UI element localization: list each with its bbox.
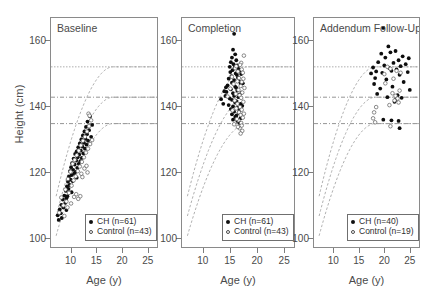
data-point-ch [385, 95, 389, 99]
data-point-control [85, 130, 89, 134]
data-point-ch [400, 96, 404, 100]
x-tick [203, 248, 204, 253]
data-point-ch [230, 56, 234, 60]
data-point-ch [407, 56, 411, 60]
data-point-control [76, 169, 80, 173]
data-point-control [86, 147, 90, 151]
data-point-ch [372, 82, 376, 86]
data-point-control [239, 84, 243, 88]
filled-circle-icon [351, 220, 355, 224]
data-point-ch [222, 89, 226, 93]
plot-frame: CompletionCH (n=61)Control (n=43) [181, 17, 295, 248]
data-point-ch [230, 112, 234, 116]
legend: CH (n=61)Control (n=43) [222, 214, 294, 241]
data-point-control [79, 194, 83, 198]
data-point-ch [379, 52, 383, 56]
legend-label: Control (n=43) [97, 227, 152, 237]
legend-item-control: Control (n=19) [351, 227, 414, 237]
data-point-ch [394, 49, 398, 53]
data-point-control [236, 80, 240, 84]
panel-title: Completion [188, 22, 241, 34]
x-tick-label: 10 [197, 255, 208, 266]
growth-curve-1 [319, 97, 420, 216]
data-point-control [239, 96, 243, 100]
data-point-control [242, 112, 246, 116]
plot-frame: BaselineCH (n=61)Control (n=43) [50, 17, 158, 248]
data-point-control [82, 155, 86, 159]
x-axis-label: Age (y) [50, 274, 158, 286]
data-point-control [226, 95, 230, 99]
data-point-ch [231, 48, 235, 52]
legend: CH (n=40)Control (n=19) [347, 214, 419, 241]
data-point-control [75, 153, 79, 157]
data-point-control [66, 177, 70, 181]
data-point-control [389, 124, 393, 128]
open-circle-icon [89, 230, 93, 234]
x-axis-label: Age (y) [181, 274, 295, 286]
data-point-ch [224, 85, 228, 89]
data-point-ch [221, 102, 225, 106]
plot-frame: Addendum Follow-UpCH (n=40)Control (n=19… [313, 17, 420, 248]
data-point-control [391, 91, 395, 95]
data-point-ch [386, 44, 390, 48]
data-point-control [383, 72, 387, 76]
data-point-control [59, 196, 63, 200]
data-point-control [398, 89, 402, 93]
filled-circle-icon [226, 220, 230, 224]
data-point-control [90, 138, 94, 142]
data-point-control [242, 100, 246, 104]
data-point-control [62, 204, 66, 208]
data-point-control [232, 122, 236, 126]
x-tick-label: 25 [279, 255, 290, 266]
data-point-ch [399, 64, 403, 68]
open-circle-icon [226, 230, 230, 234]
data-point-control [78, 165, 82, 169]
data-point-ch [392, 61, 396, 65]
x-tick-label: 10 [328, 255, 339, 266]
x-tick [384, 248, 385, 253]
x-axis-label: Age (y) [313, 274, 420, 286]
y-axis-label: Height (cm) [13, 69, 25, 159]
data-point-control [67, 191, 71, 195]
y-tick-label: 120 [292, 167, 309, 178]
growth-chart-figure: Height (cm) BaselineCH (n=61)Control (n=… [0, 0, 429, 294]
data-point-ch [373, 76, 377, 80]
data-point-control [86, 171, 90, 175]
panel-baseline: BaselineCH (n=61)Control (n=43)100120140… [50, 17, 158, 248]
data-point-control [231, 109, 235, 113]
data-point-control [397, 101, 401, 105]
data-point-control [87, 124, 91, 128]
data-point-ch [381, 118, 385, 122]
x-tick [257, 248, 258, 253]
x-tick [359, 248, 360, 253]
data-point-ch [391, 85, 395, 89]
data-point-control [88, 142, 92, 146]
x-tick-label: 25 [404, 255, 415, 266]
x-tick-label: 25 [142, 255, 153, 266]
data-point-control [230, 75, 234, 79]
data-point-control [236, 102, 240, 106]
panel-completion: CompletionCH (n=61)Control (n=43)1001201… [181, 17, 295, 248]
x-tick [96, 248, 97, 253]
data-point-control [242, 54, 246, 58]
data-point-control [71, 162, 75, 166]
legend-item-control: Control (n=43) [226, 227, 289, 237]
data-point-control [79, 144, 83, 148]
legend-item-control: Control (n=43) [89, 227, 152, 237]
x-tick [410, 248, 411, 253]
data-point-ch [231, 118, 235, 122]
data-point-control [77, 149, 81, 153]
data-point-control [234, 92, 238, 96]
y-tick-label: 140 [29, 101, 46, 112]
x-tick [148, 248, 149, 253]
data-point-control [84, 151, 88, 155]
data-point-control [70, 184, 74, 188]
data-point-ch [378, 87, 382, 91]
data-point-ch [86, 120, 90, 124]
data-point-ch [398, 126, 402, 130]
y-tick-label: 100 [292, 233, 309, 244]
data-point-control [81, 139, 85, 143]
y-tick-label: 140 [292, 101, 309, 112]
data-point-ch [219, 97, 223, 101]
data-point-ch [389, 50, 393, 54]
